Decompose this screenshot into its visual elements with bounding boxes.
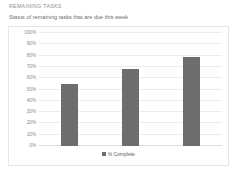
bar-slot (39, 33, 100, 146)
y-axis-tick-label: 20% (27, 120, 36, 125)
y-axis-tick-label: 40% (27, 97, 36, 102)
y-axis-tick-label: 100% (24, 30, 36, 35)
remaining-tasks-widget: REMAINING TASKS Status of remaining task… (0, 0, 245, 180)
bar[interactable] (61, 84, 78, 146)
bar[interactable] (122, 69, 139, 146)
bar-group (39, 33, 222, 146)
y-axis-tick-label: 30% (27, 109, 36, 114)
y-axis-tick-label: 0% (29, 143, 36, 148)
y-axis-tick-label: 10% (27, 131, 36, 136)
widget-subtitle: Status of remaining tasks that are due t… (9, 14, 128, 20)
bar-slot (161, 33, 222, 146)
y-axis-tick-label: 50% (27, 86, 36, 91)
legend-swatch-icon (102, 152, 106, 156)
widget-title: REMAINING TASKS (9, 3, 62, 9)
y-axis-tick-label: 60% (27, 75, 36, 80)
y-axis-tick-label: 90% (27, 41, 36, 46)
bar[interactable] (183, 57, 200, 146)
bar-slot (100, 33, 161, 146)
plot-area: 100%90%80%70%60%50%40%30%20%10%0% (39, 33, 222, 146)
chart-legend: % Complete (9, 151, 228, 157)
y-axis-tick-label: 80% (27, 52, 36, 57)
chart-panel: 100%90%80%70%60%50%40%30%20%10%0% % Comp… (8, 26, 229, 166)
legend-label: % Complete (108, 151, 135, 157)
y-axis-tick-label: 70% (27, 63, 36, 68)
